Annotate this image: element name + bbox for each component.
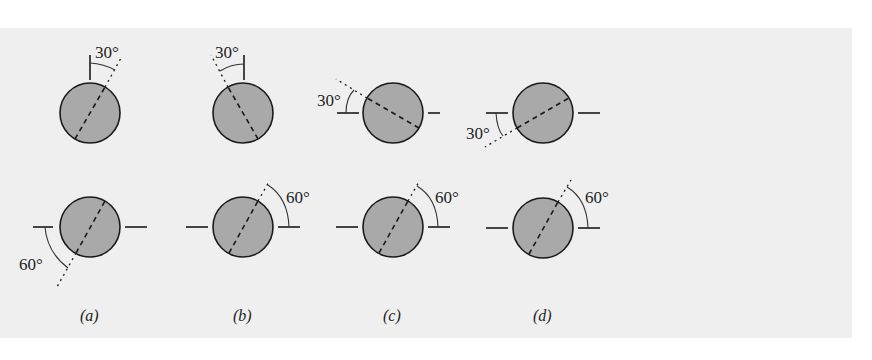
angle-label: 30° <box>215 43 239 62</box>
dashed-axis-extension <box>105 58 121 87</box>
dashed-axis-extension <box>258 180 270 201</box>
angle-label: 60° <box>585 188 609 207</box>
dashed-axis-extension <box>57 253 76 287</box>
panel-a-bottom-disk: 60° <box>19 197 147 287</box>
angle-label: 30° <box>95 43 119 62</box>
panel-b: 30° 60° (b) <box>186 43 310 325</box>
angle-arc <box>496 113 503 136</box>
panel-a: 30° 60° (a) <box>19 43 147 325</box>
panel-b-bottom-disk: 60° <box>186 180 310 257</box>
panel-label: (c) <box>383 307 401 325</box>
disk-orientation-diagram: 30° 60° (a) 30° <box>0 0 872 360</box>
panel-b-top-disk: 30° <box>211 43 273 143</box>
panel-label: (d) <box>533 307 552 325</box>
panel-a-top-disk: 30° <box>60 43 121 143</box>
angle-label: 60° <box>286 188 310 207</box>
dashed-axis-extension <box>558 180 571 202</box>
panel-d: 30° 60° (d) <box>466 83 609 325</box>
panel-label: (b) <box>233 307 252 325</box>
panel-d-bottom-disk: 60° <box>486 180 609 258</box>
angle-arc <box>90 63 115 70</box>
dashed-axis-extension <box>408 180 420 201</box>
panel-c: 30° 60° (c) <box>317 79 459 325</box>
panel-c-bottom-disk: 60° <box>336 180 459 257</box>
panel-c-top-disk: 30° <box>317 79 440 143</box>
angle-label: 30° <box>317 91 341 110</box>
angle-arc <box>346 90 354 113</box>
angle-label: 30° <box>466 124 490 143</box>
panel-label: (a) <box>80 307 99 325</box>
angle-arc <box>220 64 244 71</box>
panel-d-top-disk: 30° <box>466 83 600 147</box>
angle-label: 60° <box>19 255 43 274</box>
angle-label: 60° <box>435 188 459 207</box>
